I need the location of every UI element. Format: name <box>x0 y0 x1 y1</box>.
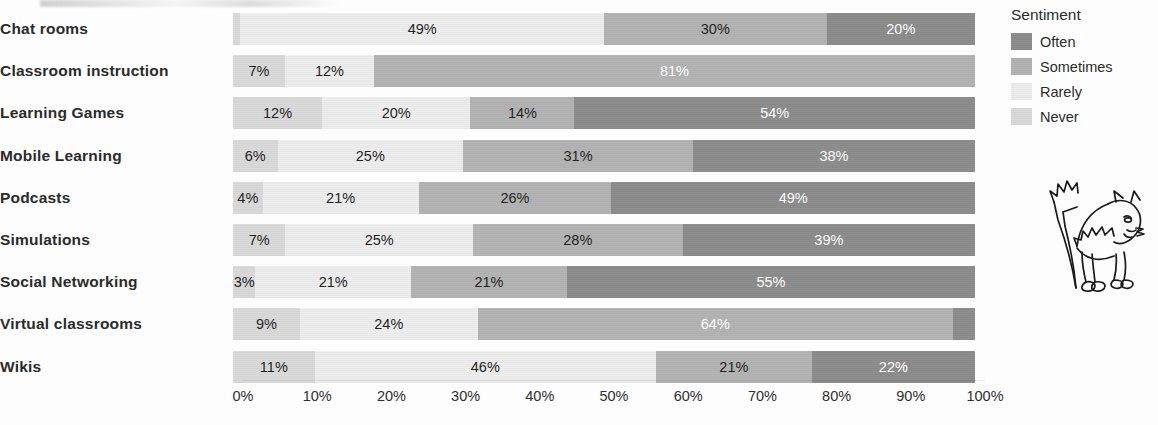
legend-item[interactable]: Sometimes <box>1011 54 1158 79</box>
bar-row: Classroom instruction7%12%81% <box>0 50 1010 92</box>
x-axis-tick-label: 10% <box>303 388 332 404</box>
bar-segment: 21% <box>656 351 812 383</box>
bar-segment: 54% <box>574 97 975 129</box>
bar-rows: Chat rooms49%30%20%Classroom instruction… <box>0 8 1010 388</box>
x-axis-tick-label: 30% <box>451 388 480 404</box>
legend-item[interactable]: Rarely <box>1011 79 1158 104</box>
bar-segment: 7% <box>233 55 285 87</box>
x-axis-tick-label: 40% <box>525 388 554 404</box>
bar-segment: 12% <box>285 55 374 87</box>
stacked-bar: 11%46%21%22% <box>233 351 975 383</box>
bar-segment: 20% <box>322 97 470 129</box>
bar-segment: 39% <box>683 224 975 256</box>
category-label: Podcasts <box>0 189 233 207</box>
axis-baseline <box>243 380 985 381</box>
bar-segment: 21% <box>411 266 567 298</box>
category-label: Chat rooms <box>0 20 233 38</box>
bar-row: Chat rooms49%30%20% <box>0 8 1010 50</box>
bar-segment: 4% <box>233 182 263 214</box>
bar-row: Social Networking3%21%21%55% <box>0 261 1010 303</box>
bar-segment: 30% <box>604 13 827 45</box>
bar-segment: 3% <box>233 266 255 298</box>
bar-row: Learning Games12%20%14%54% <box>0 92 1010 134</box>
legend-color-swatch <box>1011 83 1032 100</box>
legend-color-swatch <box>1011 33 1032 50</box>
category-label: Classroom instruction <box>0 62 233 80</box>
bar-segment: 28% <box>473 224 683 256</box>
legend-item-label: Sometimes <box>1040 59 1113 75</box>
bar-segment <box>953 308 975 340</box>
bar-segment: 26% <box>419 182 612 214</box>
bar-segment: 25% <box>285 224 472 256</box>
bar-row: Mobile Learning6%25%31%38% <box>0 135 1010 177</box>
x-axis: 0%10%20%30%40%50%60%70%80%90%100% <box>243 388 985 412</box>
bar-segment: 31% <box>463 140 693 172</box>
category-label: Virtual classrooms <box>0 315 233 333</box>
category-label: Learning Games <box>0 104 233 122</box>
bar-segment: 6% <box>233 140 278 172</box>
bar-segment: 12% <box>233 97 322 129</box>
stacked-bar: 49%30%20% <box>233 13 975 45</box>
legend-item-label: Often <box>1040 34 1075 50</box>
legend-item-label: Never <box>1040 109 1079 125</box>
stacked-bar: 7%25%28%39% <box>233 224 975 256</box>
chart-page: Chat rooms49%30%20%Classroom instruction… <box>0 0 1158 425</box>
bar-segment: 64% <box>478 308 953 340</box>
x-axis-tick-label: 70% <box>748 388 777 404</box>
chart-plot-area: Chat rooms49%30%20%Classroom instruction… <box>0 0 1010 425</box>
bar-segment: 46% <box>315 351 656 383</box>
category-label: Wikis <box>0 358 233 376</box>
bar-segment: 11% <box>233 351 315 383</box>
stacked-bar: 4%21%26%49% <box>233 182 975 214</box>
legend-item[interactable]: Often <box>1011 29 1158 54</box>
chart-legend: Sentiment OftenSometimesRarelyNever <box>1011 6 1158 129</box>
stacked-bar: 12%20%14%54% <box>233 97 975 129</box>
bar-segment: 49% <box>240 13 604 45</box>
bar-segment: 81% <box>374 55 975 87</box>
bar-row: Virtual classrooms9%24%64% <box>0 303 1010 345</box>
bar-segment: 55% <box>567 266 975 298</box>
legend-color-swatch <box>1011 108 1032 125</box>
bar-segment: 14% <box>470 97 574 129</box>
bar-segment: 21% <box>255 266 411 298</box>
bar-segment: 9% <box>233 308 300 340</box>
bar-segment: 25% <box>278 140 464 172</box>
x-axis-tick-label: 60% <box>674 388 703 404</box>
stacked-bar: 7%12%81% <box>233 55 975 87</box>
bar-row: Simulations7%25%28%39% <box>0 219 1010 261</box>
x-axis-tick-label: 90% <box>896 388 925 404</box>
bar-segment: 49% <box>611 182 975 214</box>
category-label: Social Networking <box>0 273 233 291</box>
category-label: Mobile Learning <box>0 147 233 165</box>
bar-segment: 24% <box>300 308 478 340</box>
x-axis-tick-label: 100% <box>966 388 1003 404</box>
stacked-bar: 3%21%21%55% <box>233 266 975 298</box>
legend-item-label: Rarely <box>1040 84 1082 100</box>
stacked-bar: 6%25%31%38% <box>233 140 975 172</box>
bar-row: Wikis11%46%21%22% <box>0 346 1010 388</box>
bar-segment <box>233 13 240 45</box>
x-axis-tick-label: 20% <box>377 388 406 404</box>
bar-segment: 38% <box>693 140 975 172</box>
legend-title: Sentiment <box>1011 6 1158 24</box>
bar-row: Podcasts4%21%26%49% <box>0 177 1010 219</box>
cat-drawing <box>1032 168 1152 298</box>
legend-color-swatch <box>1011 58 1032 75</box>
bar-segment: 22% <box>812 351 975 383</box>
legend-item-list: OftenSometimesRarelyNever <box>1011 29 1158 129</box>
x-axis-tick-label: 0% <box>233 388 254 404</box>
bar-segment: 7% <box>233 224 285 256</box>
bar-segment: 21% <box>263 182 419 214</box>
category-label: Simulations <box>0 231 233 249</box>
x-axis-tick-label: 50% <box>599 388 628 404</box>
stacked-bar: 9%24%64% <box>233 308 975 340</box>
legend-item[interactable]: Never <box>1011 104 1158 129</box>
x-axis-tick-label: 80% <box>822 388 851 404</box>
bar-segment: 20% <box>827 13 975 45</box>
